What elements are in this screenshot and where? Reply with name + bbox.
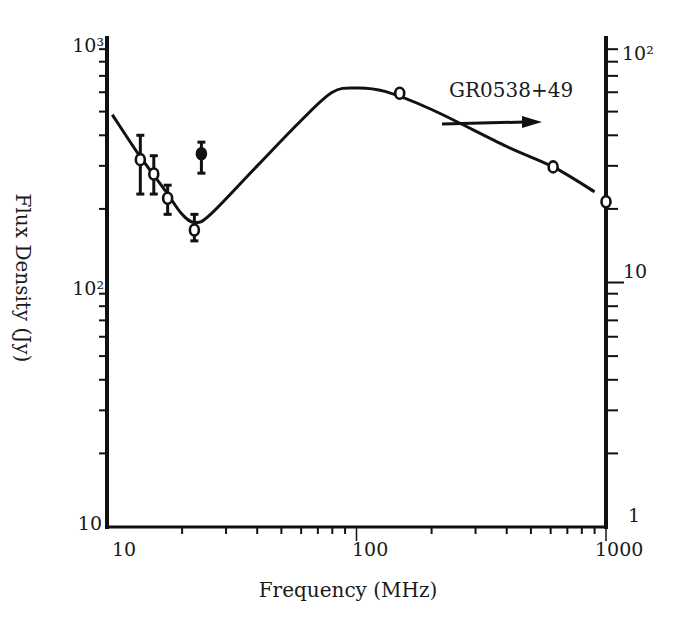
y-left-tick-10: 10: [78, 512, 102, 534]
fitted-spectrum-curve: [112, 88, 594, 223]
axes: [107, 38, 606, 527]
y-right-tick-10: 10: [623, 260, 647, 282]
y-left-tick-100: 10²: [72, 277, 104, 299]
y-axis-title: Flux Density (Jy): [11, 194, 35, 363]
x-tick-1000: 1000: [595, 538, 643, 560]
data-point: [602, 196, 611, 207]
y-left-tick-1000: 10³: [72, 34, 104, 56]
radio-spectrum-chart: 10 100 1000 10 10² 10³ 1 10 10² Frequenc…: [0, 0, 676, 632]
x-axis-title: Frequency (MHz): [259, 578, 438, 602]
tick-marks: [99, 49, 624, 541]
source-annotation: GR0538+49: [449, 78, 573, 102]
data-point: [549, 161, 558, 172]
data-point: [395, 88, 404, 99]
data-point: [149, 156, 158, 194]
data-point: [190, 214, 199, 241]
data-point: [136, 135, 145, 194]
data-point: [197, 142, 206, 173]
spectrum-fit-line: [112, 88, 594, 223]
y-right-tick-100: 10²: [622, 42, 654, 64]
tick-labels: 10 100 1000 10 10² 10³ 1 10 10²: [72, 34, 654, 560]
y-right-tick-1: 1: [628, 504, 640, 526]
x-tick-100: 100: [352, 538, 388, 560]
x-tick-10: 10: [112, 538, 136, 560]
